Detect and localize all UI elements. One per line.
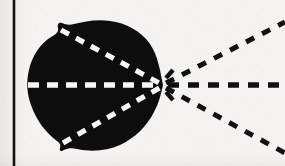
figure-canvas bbox=[0, 0, 285, 166]
ray-diagram-svg bbox=[0, 0, 285, 166]
